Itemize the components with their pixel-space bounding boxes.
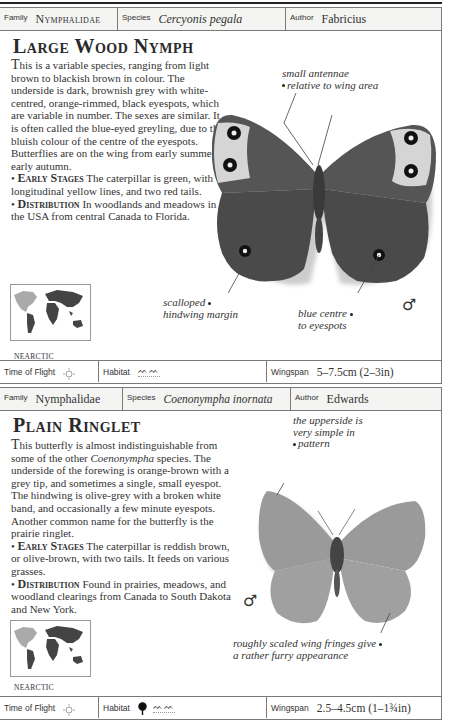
world-map	[10, 284, 91, 341]
distribution: • Distribution In woodlands and meadows …	[11, 198, 229, 223]
family-label: Family	[4, 13, 28, 22]
species-field: Species Cercyonis pegala	[118, 8, 286, 30]
annotation-wing-fringes: roughly scaled wing fringes give a rathe…	[233, 638, 384, 661]
annotation-hindwing-margin: scalloped hindwing margin	[163, 297, 238, 320]
time-of-flight-label: Time of Flight	[4, 703, 55, 713]
species-title: Plain Ringlet	[13, 414, 141, 437]
species-value: Coenonympha inornata	[163, 393, 272, 405]
top-rule	[0, 2, 442, 4]
card-header: Family Nymphalidae Species Coenonympha i…	[0, 388, 441, 411]
species-label: Species	[127, 393, 155, 402]
world-map-icon	[11, 621, 90, 676]
species-field: Species Coenonympha inornata	[123, 388, 291, 410]
author-label: Author	[290, 13, 314, 22]
tree-icon	[138, 701, 147, 714]
species-card-large-wood-nymph: Family Nymphalidae Species Cercyonis peg…	[0, 7, 442, 384]
sun-icon	[63, 366, 75, 378]
species-title: Large Wood Nymph	[13, 35, 194, 58]
family-value: Nymphalidae	[36, 12, 101, 27]
pointer-dot	[293, 443, 296, 446]
pointer-dot	[350, 313, 353, 316]
male-symbol: ♂	[402, 295, 416, 314]
time-of-flight-field: Time of Flight	[0, 697, 99, 718]
wingspan-field: Wingspan 5–7.5cm (2–3in)	[267, 361, 441, 382]
wingspan-value: 5–7.5cm (2–3in)	[317, 366, 394, 378]
card-footer: Time of Flight Habitat ᨓᨓ Wingspan 5–7.5…	[0, 360, 441, 383]
distribution: • Distribution Found in prairies, meadow…	[11, 578, 239, 616]
time-of-flight-field: Time of Flight	[0, 361, 99, 382]
wingspan-label: Wingspan	[271, 703, 309, 713]
wingspan-value: 2.5–4.5cm (1–1¾in)	[317, 702, 411, 714]
region-label: NEARCTIC	[14, 683, 54, 692]
world-map-icon	[11, 285, 90, 340]
species-description: This butterfly is almost indistinguishab…	[11, 439, 239, 615]
card-footer: Time of Flight Habitat ᨓᨓ Wingspan 2.5–4…	[0, 696, 441, 719]
world-map	[10, 620, 91, 677]
author-value: Edwards	[327, 392, 369, 407]
habitat-label: Habitat	[103, 703, 130, 713]
annotation-blue-centre: blue centre to eyespots	[298, 308, 355, 331]
species-description: This is a variable species, ranging from…	[11, 59, 229, 223]
species-card-plain-ringlet: Family Nymphalidae Species Coenonympha i…	[0, 387, 442, 720]
card-header: Family Nymphalidae Species Cercyonis peg…	[0, 8, 441, 31]
annotation-antennae: small antennae relative to wing area	[282, 68, 378, 91]
habitat-field: Habitat ᨓᨓ	[99, 697, 267, 718]
sun-icon	[63, 702, 75, 714]
author-field: Author Fabricius	[286, 8, 441, 30]
author-value: Fabricius	[322, 12, 367, 27]
family-field: Family Nymphalidae	[0, 388, 123, 410]
grassland-icon: ᨓᨓ	[153, 702, 175, 713]
pointer-dot	[208, 302, 211, 305]
description-paragraph: This is a variable species, ranging from…	[11, 59, 229, 172]
time-of-flight-label: Time of Flight	[4, 367, 55, 377]
family-value: Nymphalidae	[36, 392, 101, 407]
description-paragraph: This butterfly is almost indistinguishab…	[11, 439, 239, 540]
grassland-icon: ᨓᨓ	[138, 366, 160, 377]
author-label: Author	[295, 393, 319, 402]
author-field: Author Edwards	[291, 388, 441, 410]
family-field: Family Nymphalidae	[0, 8, 118, 30]
butterfly-illustration-plain-ringlet	[255, 483, 440, 633]
early-stages: • Early Stages The caterpillar is reddis…	[11, 540, 239, 578]
habitat-field: Habitat ᨓᨓ	[99, 361, 267, 382]
early-stages: • Early Stages The caterpillar is green,…	[11, 172, 229, 197]
pointer-dot	[282, 84, 285, 87]
wingspan-field: Wingspan 2.5–4.5cm (1–1¾in)	[267, 697, 441, 718]
male-symbol: ♂	[243, 591, 257, 610]
species-value: Cercyonis pegala	[158, 12, 242, 27]
butterfly-illustration-large-wood-nymph	[212, 93, 442, 293]
annotation-upperside: the upperside is very simple in pattern	[293, 415, 363, 450]
habitat-label: Habitat	[103, 367, 130, 377]
pointer-dot	[379, 643, 382, 646]
wingspan-label: Wingspan	[271, 367, 309, 377]
family-label: Family	[4, 393, 28, 402]
species-label: Species	[122, 13, 150, 22]
